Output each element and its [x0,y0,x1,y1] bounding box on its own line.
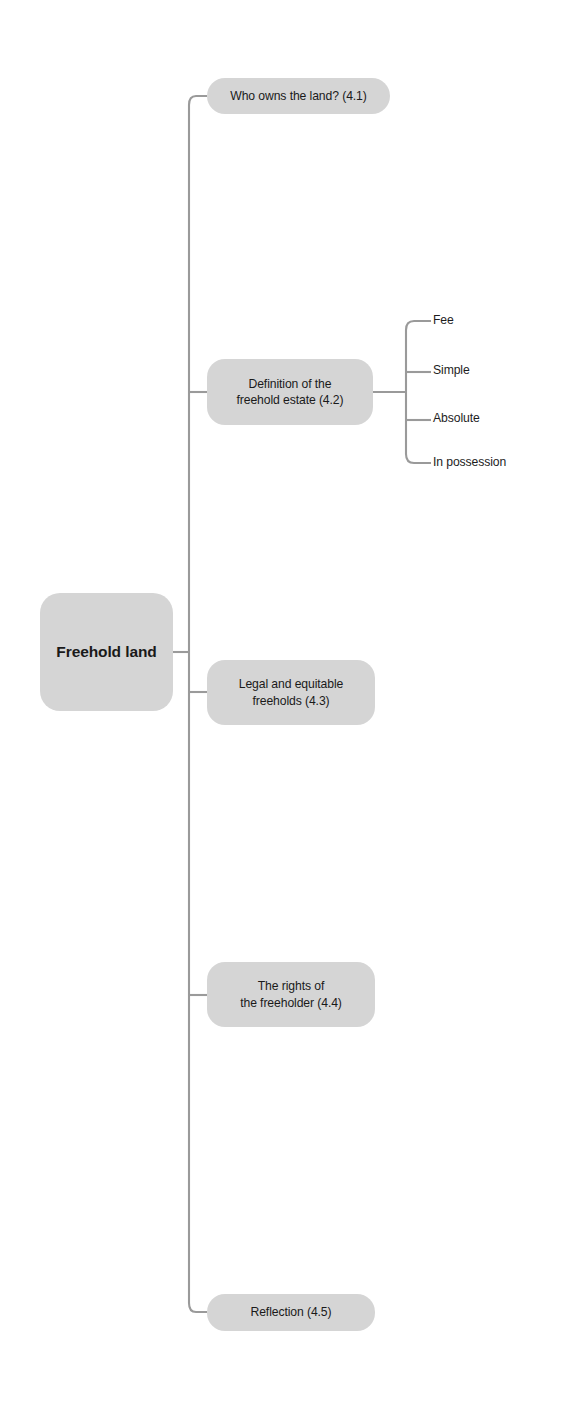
node-branch-4-4[interactable]: The rights of the freeholder (4.4) [207,962,375,1027]
node-root-label: Freehold land [47,642,165,662]
leaf-label-fee: Fee [433,313,454,327]
node-branch-4-2[interactable]: Definition of the freehold estate (4.2) [207,359,373,425]
leaf-label-simple: Simple [433,363,470,377]
node-branch-4-2-label: Definition of the freehold estate (4.2) [228,376,353,408]
mindmap-diagram: Freehold land Who owns the land? (4.1) D… [0,0,561,1410]
node-branch-4-5[interactable]: Reflection (4.5) [207,1294,375,1331]
leaf-label-in-possession: In possession [433,455,506,469]
node-branch-4-1[interactable]: Who owns the land? (4.1) [207,78,390,114]
node-branch-4-3[interactable]: Legal and equitable freeholds (4.3) [207,660,375,725]
node-branch-4-4-label: The rights of the freeholder (4.4) [231,978,351,1010]
node-branch-4-1-label: Who owns the land? (4.1) [221,88,375,104]
node-branch-4-3-label: Legal and equitable freeholds (4.3) [230,676,353,708]
leaf-label-absolute: Absolute [433,411,480,425]
node-branch-4-5-label: Reflection (4.5) [241,1304,340,1320]
node-root-freehold-land[interactable]: Freehold land [40,593,173,711]
connector-sub-trunk [406,321,431,463]
connector-main-trunk [189,96,207,1312]
